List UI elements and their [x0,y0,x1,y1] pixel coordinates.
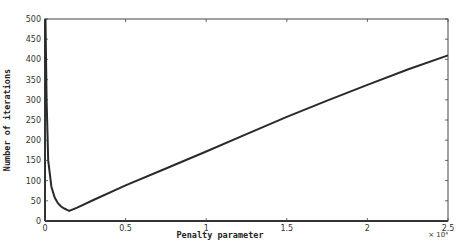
y-tick-label: 400 [26,55,41,64]
y-tick-label: 250 [26,116,41,125]
y-tick-label: 300 [26,96,41,105]
y-tick-label: 50 [31,197,41,206]
x-tick-label: 0.5 [119,224,132,233]
plot-area [45,19,448,221]
x-tick-label: 0 [42,224,47,233]
line-chart: 050100150200250300350400450500 00.511.52… [0,0,468,251]
iterations-curve [46,19,449,211]
y-tick-label: 450 [26,35,41,44]
y-tick-label: 200 [26,136,41,145]
y-tick-label: 350 [26,76,41,85]
x-axis: 00.511.522.5 [42,19,454,233]
y-tick-label: 100 [26,177,41,186]
x-axis-label: Penalty parameter [177,230,264,240]
x-tick-label: 1.5 [280,224,293,233]
x-axis-multiplier: × 10⁴ [428,231,448,239]
y-tick-label: 500 [26,15,41,24]
y-axis: 050100150200250300350400450500 [26,15,448,226]
y-tick-label: 150 [26,156,41,165]
x-tick-label: 2 [365,224,370,233]
y-axis-label: Number of iterations [2,69,12,171]
y-tick-label: 0 [36,217,41,226]
